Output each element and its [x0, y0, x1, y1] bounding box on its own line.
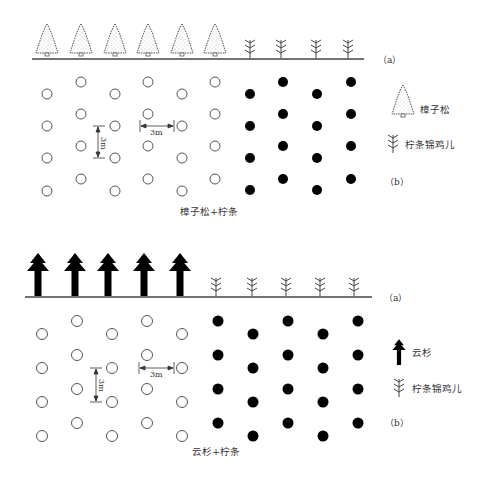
horizontal-spacing-label: 3m [150, 128, 163, 137]
legend: 云杉 柠条锦鸡儿 （b） [385, 339, 462, 428]
caragana-icon [388, 135, 398, 153]
profile-view: （a） [32, 24, 401, 65]
profile-view: （a） [25, 253, 407, 303]
legend-tree-label: 樟子松 [420, 104, 450, 115]
legend-shrub-label: 柠条锦鸡儿 [412, 383, 462, 394]
planting-pattern-diagram: （a） [0, 0, 491, 483]
vertical-spacing-label: 3m [99, 137, 108, 150]
diagram-spruce: （a） 3 [25, 253, 462, 457]
tree-positions [37, 316, 188, 442]
horizontal-spacing-label: 3m [150, 370, 163, 379]
legend-shrub-label: 柠条锦鸡儿 [405, 139, 455, 150]
shrub-positions [245, 77, 356, 195]
legend-tree-label: 云杉 [412, 347, 432, 358]
plan-label: （b） [385, 177, 409, 187]
legend: 樟子松 柠条锦鸡儿 （b） [385, 85, 455, 187]
caragana-icon [211, 278, 359, 296]
camphor-pine-icon [36, 24, 226, 56]
caragana-icon [245, 40, 353, 58]
vertical-spacing-label: 3m [97, 379, 106, 392]
shrub-positions [213, 316, 364, 442]
plan-view: 3m 3m 樟子松+柠条 [42, 77, 356, 217]
plan-view: 3m 3m 云杉+柠条 [37, 316, 364, 458]
camphor-pine-icon [392, 85, 414, 117]
spruce-icon [392, 339, 405, 365]
spruce-icon [27, 253, 191, 296]
caragana-icon [394, 379, 404, 397]
plan-label: （b） [385, 418, 409, 428]
tree-positions [42, 77, 220, 196]
diagram-caption: 樟子松+柠条 [180, 206, 238, 217]
diagram-camphor-pine: （a） [32, 24, 455, 217]
profile-label: （a） [384, 293, 407, 303]
profile-label: （a） [378, 55, 401, 65]
diagram-caption: 云杉+柠条 [192, 446, 240, 457]
